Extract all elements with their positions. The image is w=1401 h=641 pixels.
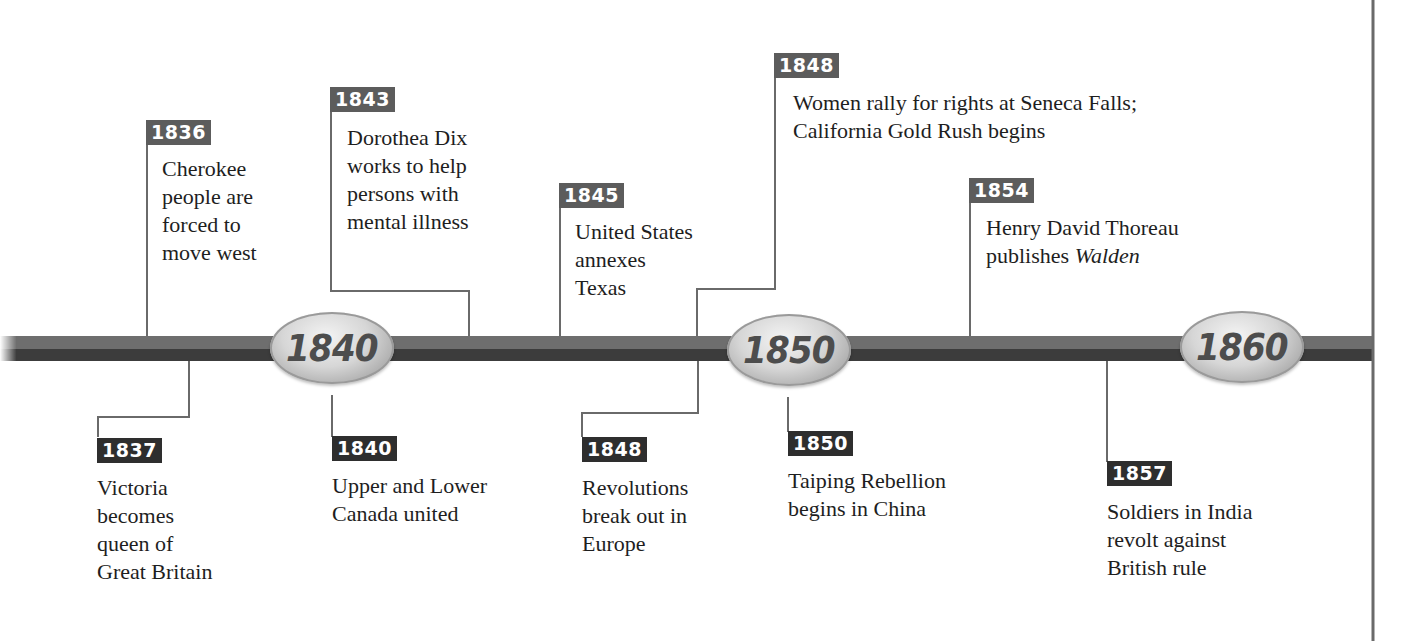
event-text-1848-top: Women rally for rights at Seneca Falls; … (793, 89, 1137, 145)
year-badge-1843: 1843 (330, 87, 395, 112)
timeline-bar (0, 336, 1374, 361)
event-text-1840: Upper and Lower Canada united (332, 472, 487, 528)
year-badge-1837: 1837 (97, 438, 162, 463)
year-badge-1854: 1854 (969, 178, 1034, 203)
event-text-1837: Victoria becomes queen of Great Britain (97, 474, 212, 586)
decade-marker-1850: 1850 (727, 314, 851, 386)
decade-marker-1840: 1840 (270, 312, 394, 384)
event-text-1848-bottom: Revolutions break out in Europe (582, 474, 688, 558)
decade-label: 1860 (1196, 325, 1288, 369)
year-badge-1848-top: 1848 (774, 53, 839, 78)
event-text-1857: Soldiers in India revolt against British… (1107, 498, 1252, 582)
decade-label: 1840 (286, 326, 378, 370)
decade-marker-1860: 1860 (1180, 311, 1304, 383)
timeline-1836-1860: 1840 1850 1860 1836 Cherokee people are … (0, 0, 1401, 641)
event-text-1850: Taiping Rebellion begins in China (788, 467, 946, 523)
book-title-walden: Walden (1075, 243, 1140, 268)
year-badge-1845: 1845 (559, 183, 624, 208)
event-text-1843: Dorothea Dix works to help persons with … (347, 124, 469, 236)
year-badge-1848-bottom: 1848 (582, 437, 647, 462)
event-text-1836: Cherokee people are forced to move west (162, 155, 257, 267)
connector-1848-top (697, 54, 775, 336)
connector-1848-bottom (582, 361, 698, 437)
connector-1837 (98, 361, 189, 437)
event-text-1845: United States annexes Texas (575, 218, 693, 302)
year-badge-1857: 1857 (1107, 461, 1172, 486)
year-badge-1836: 1836 (146, 120, 211, 145)
year-badge-1840: 1840 (332, 436, 397, 461)
event-text-1854: Henry David Thoreau publishes Walden (986, 214, 1179, 270)
decade-label: 1850 (743, 328, 835, 372)
year-badge-1850: 1850 (788, 431, 853, 456)
